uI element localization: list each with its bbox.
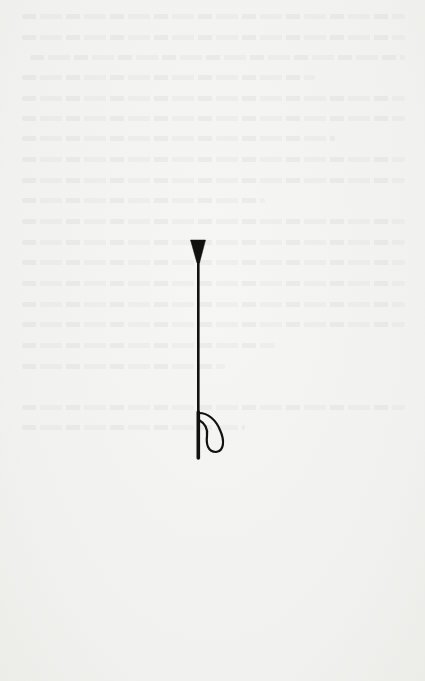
riding-crop-illustration <box>0 0 425 681</box>
book-page <box>0 0 425 681</box>
crop-wrist-loop <box>199 413 223 452</box>
crop-tip <box>191 240 206 263</box>
